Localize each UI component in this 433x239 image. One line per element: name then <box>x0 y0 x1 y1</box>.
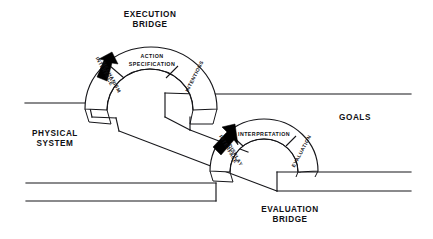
left-platform-face-bottom <box>92 117 116 118</box>
execution-arch-left-foot-line <box>89 122 111 124</box>
evaluation-arch-left-foot-line <box>213 181 233 182</box>
ramp-upper-edge <box>119 131 216 168</box>
title-evaluation-bridge-line2: BRIDGE <box>272 215 307 224</box>
execution-bridge-arch: INTERFACE MECHANISM ACTION SPECIFICATION… <box>85 47 217 124</box>
evaluation-arch-left-depth <box>210 171 213 181</box>
captions: EXECUTION BRIDGE EVALUATION BRIDGE PHYSI… <box>32 10 371 224</box>
execution-arch-left-inner-depth <box>107 110 111 124</box>
label-physical-system-line1: PHYSICAL <box>32 129 78 138</box>
title-execution-bridge-line2: BRIDGE <box>132 20 167 29</box>
left-platform-face-right <box>116 118 119 131</box>
evaluation-arch-right-inner-depth <box>296 172 298 177</box>
title-execution-bridge-line1: EXECUTION <box>124 10 177 19</box>
label-goals: GOALS <box>339 113 371 122</box>
label-interpretation: INTERPRETATION <box>238 131 290 137</box>
label-action-specification-line1: ACTION <box>140 53 163 59</box>
diagram-canvas: INTERFACE MECHANISM ACTION SPECIFICATION… <box>0 0 433 239</box>
label-action-specification-line2: SPECIFICATION <box>129 61 175 67</box>
exec-right-foot-bottom <box>165 117 190 130</box>
execution-arch-right-depth <box>213 109 217 124</box>
execution-arch-left-depth <box>85 109 89 122</box>
title-evaluation-bridge-line1: EVALUATION <box>261 205 319 214</box>
norman-gulf-bridges-diagram: INTERFACE MECHANISM ACTION SPECIFICATION… <box>0 0 433 239</box>
label-physical-system-line2: SYSTEM <box>37 139 74 148</box>
